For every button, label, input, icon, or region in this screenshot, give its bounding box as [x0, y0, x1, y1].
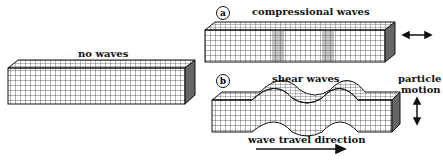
no-waves-block: [8, 60, 195, 104]
compressional-label: compressional waves: [252, 6, 370, 17]
compressional-block: [205, 22, 395, 62]
label-b: b: [216, 74, 230, 88]
no-waves-label: no waves: [78, 48, 128, 59]
wave-travel-label: wave travel direction: [248, 134, 365, 145]
shear-block: [212, 80, 400, 136]
label-a: a: [216, 6, 230, 20]
particle-label: particle: [398, 73, 441, 84]
vertical-arrow-icon: [414, 98, 420, 124]
horizontal-arrow-icon: [403, 32, 431, 38]
travel-arrow-icon: [256, 145, 345, 153]
motion-label: motion: [401, 84, 441, 95]
shear-label: shear waves: [272, 73, 339, 84]
